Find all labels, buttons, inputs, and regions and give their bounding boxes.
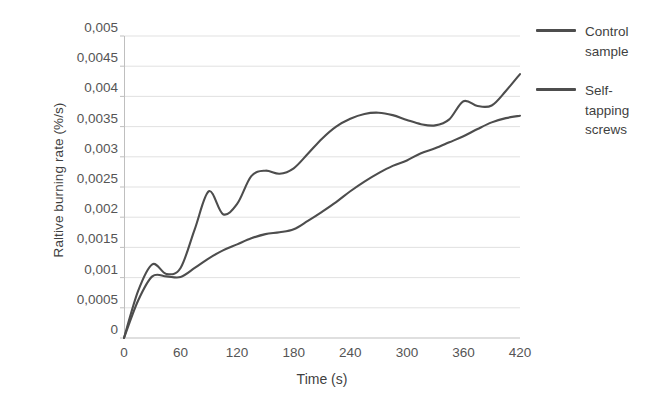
chart-legend: Control sampleSelf-tapping screws	[536, 22, 662, 160]
chart-container: Raltive burning rate (%/s) 00,00050,0010…	[0, 0, 666, 410]
x-tick-label: 180	[282, 345, 305, 360]
gridlines	[124, 36, 520, 338]
y-tick-label: 0,0005	[52, 293, 118, 307]
y-tick-label: 0,002	[52, 202, 118, 216]
legend-label: Self-tapping screws	[585, 81, 655, 140]
series-lines	[124, 74, 520, 338]
plot-svg	[124, 36, 520, 338]
x-tick-label: 0	[120, 345, 128, 360]
axis-lines	[120, 36, 125, 338]
legend-item[interactable]: Self-tapping screws	[536, 81, 662, 140]
y-tick-label: 0,0045	[52, 51, 118, 65]
y-axis-tick-labels: 00,00050,0010,00150,0020,00250,0030,0035…	[52, 28, 118, 346]
x-tick-label: 240	[339, 345, 362, 360]
legend-item[interactable]: Control sample	[536, 22, 662, 61]
x-tick-label: 300	[396, 345, 419, 360]
x-axis-title: Time (s)	[124, 371, 520, 387]
x-tick-label: 60	[173, 345, 188, 360]
series-line	[124, 116, 520, 338]
y-tick-label: 0,003	[52, 142, 118, 156]
x-tick-label: 420	[509, 345, 532, 360]
x-tick-label: 120	[226, 345, 249, 360]
y-tick-label: 0,0025	[52, 172, 118, 186]
x-axis-tick-labels: 060120180240300360420	[124, 345, 524, 365]
y-tick-label: 0,004	[52, 82, 118, 96]
x-tick-label: 360	[452, 345, 475, 360]
y-tick-label: 0	[52, 323, 118, 337]
y-tick-label: 0,0015	[52, 233, 118, 247]
legend-label: Control sample	[585, 22, 655, 61]
series-line	[124, 74, 520, 338]
legend-line-swatch	[536, 29, 576, 32]
y-tick-label: 0,005	[52, 21, 118, 35]
legend-line-swatch	[536, 88, 576, 91]
plot-area	[124, 36, 520, 338]
y-tick-label: 0,001	[52, 263, 118, 277]
y-tick-label: 0,0035	[52, 112, 118, 126]
